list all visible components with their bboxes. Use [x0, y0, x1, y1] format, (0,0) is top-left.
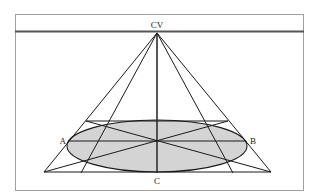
label-b: B	[250, 136, 256, 146]
perspective-diagram: CV A B C	[0, 0, 318, 194]
label-a: A	[60, 136, 67, 146]
label-c: C	[154, 176, 160, 186]
label-cv: CV	[151, 20, 164, 30]
